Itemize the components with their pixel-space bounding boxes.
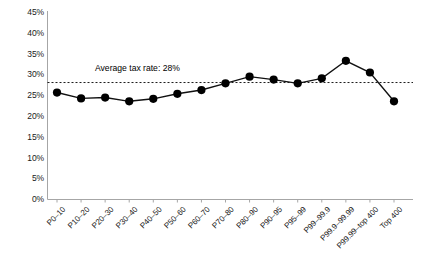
data-point-marker	[294, 79, 302, 87]
data-point-marker	[221, 79, 229, 87]
data-point-marker	[318, 74, 326, 82]
data-point-marker	[125, 97, 133, 105]
data-point-marker	[197, 86, 205, 94]
chart-container: 45% 40% 35% 30% 25% 20% 15% 10% 5% 0% Av…	[0, 0, 423, 272]
data-point-marker	[245, 73, 253, 81]
data-point-marker	[53, 88, 61, 96]
data-point-marker	[173, 90, 181, 98]
average-tax-rate-annotation: Average tax rate: 28%	[95, 63, 180, 73]
data-point-marker	[390, 97, 398, 105]
data-point-marker	[366, 68, 374, 76]
data-point-marker	[77, 94, 85, 102]
data-point-marker	[149, 95, 157, 103]
data-point-marker	[342, 57, 350, 65]
data-point-marker	[101, 93, 109, 101]
data-point-marker	[270, 76, 278, 84]
